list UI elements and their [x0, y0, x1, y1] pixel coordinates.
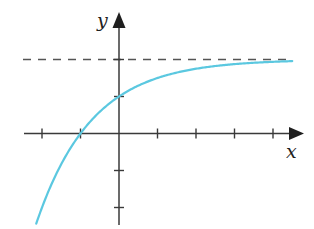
x-axis-label: x [286, 140, 297, 162]
function-graph: y x [0, 0, 314, 229]
function-curve [36, 61, 292, 224]
y-axis-arrow-icon [113, 12, 126, 28]
y-axis-label: y [96, 9, 108, 31]
x-axis-arrow-icon [289, 127, 304, 140]
